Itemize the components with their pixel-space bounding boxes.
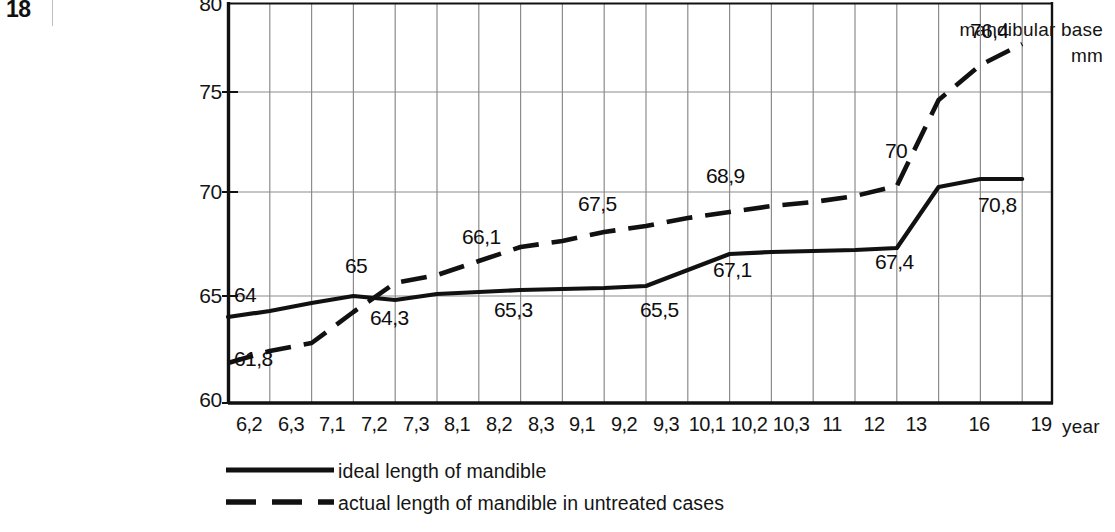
x-axis-title: year — [1062, 416, 1100, 438]
data-label-actual-61-8: 61,8 — [234, 347, 272, 371]
data-label-ideal-64: 64 — [234, 283, 256, 307]
legend-label-ideal: ideal length of mandible — [338, 460, 546, 483]
data-label-actual-68-9: 68,9 — [706, 164, 744, 188]
plot-area — [0, 0, 1115, 532]
data-label-ideal-65-3: 65,3 — [494, 298, 532, 322]
data-label-actual-66-1: 66,1 — [462, 225, 500, 249]
chart-figure: 18 mandibular base mm 80 75 70 65 60 — [0, 0, 1115, 532]
data-label-actual-67-5: 67,5 — [578, 192, 616, 216]
data-label-ideal-67-4: 67,4 — [875, 250, 913, 274]
legend-label-actual: actual length of mandible in untreated c… — [338, 492, 724, 515]
data-label-ideal-65: 65 — [345, 254, 367, 278]
data-label-ideal-65-5: 65,5 — [640, 298, 678, 322]
data-label-ideal-67-1: 67,1 — [713, 258, 751, 282]
data-label-ideal-70-8: 70,8 — [978, 193, 1016, 217]
data-label-actual-64-3: 64,3 — [370, 306, 408, 330]
vertical-gridlines — [270, 3, 1022, 403]
data-label-actual-76-4: 76,4 — [970, 19, 1008, 43]
data-label-actual-70: 70 — [885, 139, 907, 163]
